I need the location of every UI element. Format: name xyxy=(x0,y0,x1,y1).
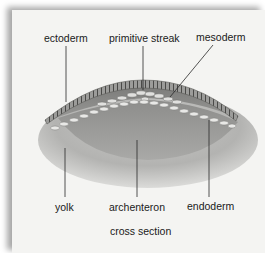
label-mesoderm: mesoderm xyxy=(196,31,246,43)
label-yolk: yolk xyxy=(55,201,74,213)
label-ectoderm: ectoderm xyxy=(44,32,88,44)
figure-caption: cross section xyxy=(110,225,171,237)
label-primitive-streak: primitive streak xyxy=(109,32,180,44)
label-archenteron: archenteron xyxy=(109,201,165,213)
label-endoderm: endoderm xyxy=(187,200,234,212)
